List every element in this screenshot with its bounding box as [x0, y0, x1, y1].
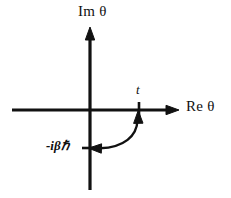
- point-minus-i-beta-hbar-label: -iβℏ: [46, 139, 69, 152]
- arrow-up-icon: [85, 27, 94, 40]
- contour-arrow-up-icon: [134, 111, 143, 124]
- imaginary-axis-label: Im θ: [78, 4, 107, 19]
- point-t-label: t: [136, 83, 140, 96]
- real-axis-label: Re θ: [186, 99, 215, 114]
- complex-time-contour-diagram: Im θ Re θ t -iβℏ: [0, 0, 231, 198]
- contour-arrow-path: [100, 120, 138, 148]
- arrow-right-icon: [166, 105, 179, 114]
